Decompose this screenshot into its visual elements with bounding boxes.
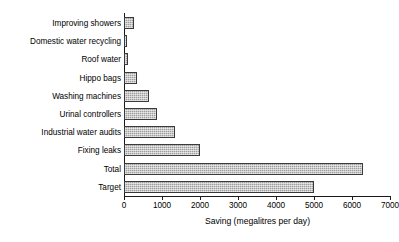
x-tick-label: 5000 [305,201,323,211]
category-label: Improving showers [52,19,121,28]
x-tick-label: 7000 [381,201,399,211]
bar [124,108,157,120]
x-tick-mark [200,196,201,200]
category-label: Industrial water audits [41,128,121,137]
category-label: Domestic water recycling [30,37,121,46]
x-tick-label: 3000 [229,201,247,211]
chart-row: Roof water [0,50,399,68]
x-tick-mark [162,196,163,200]
category-label: Target [98,182,121,191]
chart-row: Industrial water audits [0,123,399,141]
bar [124,72,137,84]
x-tick-mark [238,196,239,200]
bar-container [124,17,134,29]
x-axis-title: Saving (megalitres per day) [124,216,391,227]
x-tick-label: 0 [122,201,127,211]
chart-row: Target [0,178,399,196]
x-tick-mark [124,196,125,200]
chart-row: Total [0,160,399,178]
x-tick-mark [276,196,277,200]
x-tick-label: 4000 [267,201,285,211]
bar-container [124,35,127,47]
bar [124,181,314,193]
chart-row: Fixing leaks [0,141,399,159]
category-label: Hippo bags [80,73,121,82]
bar [124,17,134,29]
bar-container [124,181,314,193]
x-tick-mark [390,196,391,200]
bar-container [124,163,363,175]
bar [124,144,200,156]
category-label: Fixing leaks [78,146,121,155]
chart-row: Washing machines [0,87,399,105]
chart-row: Urinal controllers [0,105,399,123]
bar [124,35,127,47]
x-tick-label: 6000 [343,201,361,211]
bar-container [124,90,149,102]
x-axis-ticks: 01000200030004000500060007000 [0,196,399,216]
category-label: Roof water [81,55,121,64]
chart-rows: Improving showersDomestic water recyclin… [0,14,399,196]
x-tick-mark [352,196,353,200]
bar-container [124,53,128,65]
bar [124,53,128,65]
category-label: Urinal controllers [60,110,121,119]
bar-container [124,108,157,120]
category-label: Washing machines [52,91,121,100]
bar-container [124,126,175,138]
bar [124,90,149,102]
bar-container [124,144,200,156]
x-tick-mark [314,196,315,200]
x-tick-label: 1000 [153,201,171,211]
chart-row: Hippo bags [0,69,399,87]
category-label: Total [104,164,121,173]
bar [124,163,363,175]
bar-chart: Improving showersDomestic water recyclin… [0,0,399,242]
chart-row: Improving showers [0,14,399,32]
x-tick-label: 2000 [191,201,209,211]
bar [124,126,175,138]
chart-row: Domestic water recycling [0,32,399,50]
bar-container [124,72,137,84]
